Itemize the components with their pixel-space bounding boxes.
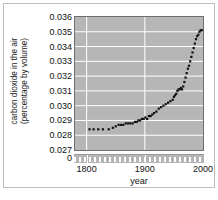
y-axis-tick-label: 0.032 — [30, 71, 72, 81]
y-axis-tick-label: 0.035 — [30, 27, 72, 37]
y-axis-tick-label: 0.033 — [30, 56, 72, 66]
x-axis-tick-label: 2000 — [193, 164, 213, 174]
y-axis-title-line1: carbon dioxide in the air — [10, 38, 20, 125]
y-axis-tick-label: 0.034 — [30, 42, 72, 52]
x-axis-tick-labels: 180019002000 — [74, 164, 204, 176]
y-axis-tick-label: 0.030 — [30, 101, 72, 111]
figure-frame: carbon dioxide in the air (percentage by… — [3, 3, 215, 188]
plot-canvas — [75, 17, 203, 150]
axis-break-hatch — [74, 157, 204, 162]
y-axis-title-line2: (percentage by volume) — [20, 38, 30, 124]
y-axis-tick-labels: 0.0360.0350.0340.0330.0320.0310.0300.029… — [30, 16, 72, 151]
axis-break-band — [74, 154, 204, 163]
y-axis-tick-label: 0.031 — [30, 86, 72, 96]
y-axis-tick-label: 0.029 — [30, 115, 72, 125]
y-axis-tick-label: 0.036 — [30, 12, 72, 22]
axis-break-divider — [87, 155, 88, 163]
plot-area — [74, 16, 204, 151]
y-axis-tick-label: 0.028 — [30, 130, 72, 140]
y-axis-zero-label: 0 — [30, 153, 72, 163]
axis-break-divider — [145, 155, 146, 163]
x-axis-title: year — [74, 176, 204, 186]
x-axis-tick-label: 1900 — [135, 164, 155, 174]
co2-chart-figure: carbon dioxide in the air (percentage by… — [0, 0, 218, 200]
x-axis-tick-label: 1800 — [77, 164, 97, 174]
